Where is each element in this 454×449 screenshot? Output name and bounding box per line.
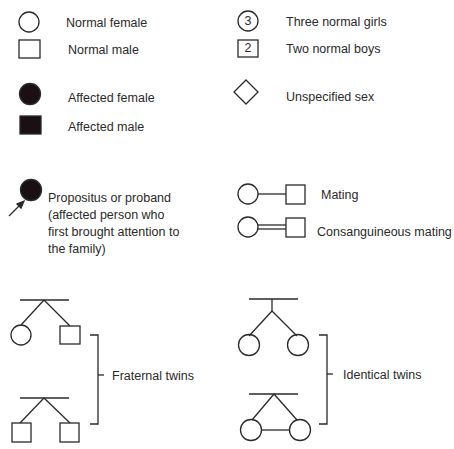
label-two-normal-boys: Two normal boys	[286, 41, 380, 57]
label-mating: Mating	[321, 187, 359, 203]
affected-male-icon	[20, 116, 41, 134]
mating-female-icon	[238, 184, 258, 204]
two-normal-boys-count: 2	[241, 41, 255, 55]
unspecified-sex-icon	[234, 80, 258, 104]
identical-twins-bottom	[241, 394, 311, 441]
affected-female-icon	[20, 84, 41, 105]
consanguineous-female-icon	[238, 217, 258, 237]
fraternal-bracket	[90, 335, 98, 424]
normal-female-icon	[19, 12, 39, 32]
fraternal-twins-top	[11, 300, 80, 345]
identical-bracket	[319, 335, 327, 424]
label-identical-twins: Identical twins	[343, 367, 422, 383]
proband-icon	[21, 180, 42, 201]
consanguineous-male-icon	[286, 218, 305, 237]
label-consanguineous-mating: Consanguineous mating	[317, 224, 452, 240]
label-unspecified-sex: Unspecified sex	[286, 89, 374, 105]
label-affected-male: Affected male	[68, 119, 144, 135]
mating-male-icon	[286, 185, 305, 204]
label-three-normal-girls: Three normal girls	[286, 14, 387, 30]
fraternal-twins-bottom	[12, 398, 79, 442]
label-normal-male: Normal male	[68, 42, 139, 58]
label-affected-female: Affected female	[68, 90, 155, 106]
label-proband: Propositus or proband (affected person w…	[48, 190, 188, 258]
normal-male-icon	[19, 40, 40, 58]
label-normal-female: Normal female	[66, 15, 147, 31]
label-fraternal-twins: Fraternal twins	[112, 368, 194, 384]
three-normal-girls-count: 3	[241, 14, 255, 28]
identical-twins-top	[239, 299, 309, 356]
